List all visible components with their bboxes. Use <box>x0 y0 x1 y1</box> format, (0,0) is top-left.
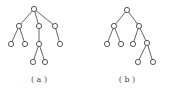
tree-node <box>8 41 13 46</box>
tree-node <box>31 6 36 11</box>
tree-node <box>144 40 149 45</box>
tree-edge <box>138 43 147 62</box>
tree-node <box>42 59 47 64</box>
caption-a: ( a ) <box>31 75 47 84</box>
tree-node <box>36 23 41 28</box>
tree-node <box>30 59 35 64</box>
caption-b: ( b ) <box>119 75 135 84</box>
tree-a <box>8 6 62 64</box>
tree-node <box>136 23 141 28</box>
tree-node <box>124 7 129 12</box>
tree-node <box>111 23 116 28</box>
tree-node <box>130 41 135 46</box>
tree-node <box>135 59 140 64</box>
tree-node <box>16 23 21 28</box>
tree-edge <box>19 9 34 26</box>
tree-node <box>104 41 109 46</box>
tree-node <box>52 23 57 28</box>
tree-node <box>22 41 27 46</box>
tree-b <box>104 7 155 64</box>
tree-diagram-figure: ( a ) ( b ) <box>0 0 179 88</box>
tree-edge <box>34 9 55 26</box>
tree-node <box>57 41 62 46</box>
tree-node <box>150 59 155 64</box>
tree-node <box>36 41 41 46</box>
tree-edge <box>114 10 127 26</box>
tree-node <box>118 41 123 46</box>
